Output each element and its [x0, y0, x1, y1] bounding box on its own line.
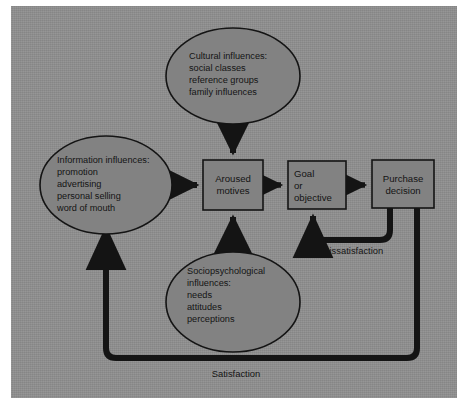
edge-dissatisfaction-loop: [313, 208, 390, 240]
node-goal-objective: Goal or objective: [288, 161, 346, 209]
label-dissatisfaction: Dissatisfaction: [323, 245, 383, 256]
information-line-4: personal selling: [57, 191, 121, 201]
goal-objective-line-3: objective: [294, 192, 332, 203]
aroused-motives-line-1: Aroused: [215, 173, 251, 184]
cultural-line-2: social classes: [189, 63, 246, 73]
sociopsychological-line-2: influences:: [187, 278, 231, 288]
cultural-line-3: reference groups: [189, 75, 259, 85]
label-satisfaction: Satisfaction: [212, 368, 260, 379]
cultural-line-4: family influences: [189, 87, 257, 97]
node-aroused-motives: Aroused motives: [203, 160, 263, 210]
box-purchase-decision: [372, 160, 434, 208]
sociopsychological-line-4: attitudes: [187, 302, 222, 312]
purchase-decision-line-2: decision: [385, 185, 420, 196]
sociopsychological-line-1: Sociopsychological: [187, 266, 265, 276]
goal-objective-line-1: Goal: [294, 168, 314, 179]
goal-objective-line-2: or: [294, 180, 303, 191]
information-line-1: Information influences:: [57, 155, 149, 165]
information-line-5: word of mouth: [56, 203, 115, 213]
node-cultural-influences: Cultural influences: social classes refe…: [166, 28, 300, 124]
information-line-2: promotion: [57, 167, 98, 177]
aroused-motives-line-2: motives: [216, 185, 249, 196]
node-purchase-decision: Purchase decision: [372, 160, 434, 208]
node-information-influences: Information influences: promotion advert…: [40, 136, 172, 234]
flowchart-diagram: Cultural influences: social classes refe…: [0, 0, 470, 414]
node-sociopsychological-influences: Sociopsychological influences: needs att…: [166, 252, 300, 352]
cultural-line-1: Cultural influences:: [189, 51, 267, 61]
figure-container: Cultural influences: social classes refe…: [0, 0, 470, 414]
information-line-3: advertising: [57, 179, 101, 189]
sociopsychological-line-5: perceptions: [187, 314, 235, 324]
sociopsychological-line-3: needs: [187, 290, 212, 300]
purchase-decision-line-1: Purchase: [383, 173, 424, 184]
